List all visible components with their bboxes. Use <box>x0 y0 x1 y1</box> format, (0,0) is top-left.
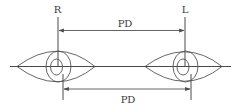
pd-diagram: R L PD PD <box>0 0 240 112</box>
right-eye-label: R <box>54 4 62 15</box>
top-pd-label: PD <box>118 18 133 29</box>
left-eye-label: L <box>182 4 189 15</box>
bottom-pd-label: PD <box>121 94 136 105</box>
